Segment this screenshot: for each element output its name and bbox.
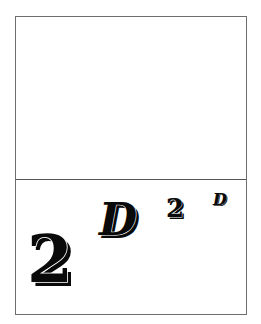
svg-text:2: 2 [27, 220, 73, 298]
glyph-d-tiny: D D D [211, 192, 231, 208]
svg-text:D: D [97, 194, 137, 245]
svg-text:2: 2 [166, 193, 184, 223]
glyph-2-small: 2 2 2 [164, 197, 190, 221]
glyph-2-large: 2 2 2 [22, 229, 84, 291]
top-panel [16, 17, 246, 179]
svg-text:D: D [212, 190, 227, 209]
glyph-d-medium: D D D [96, 200, 144, 242]
